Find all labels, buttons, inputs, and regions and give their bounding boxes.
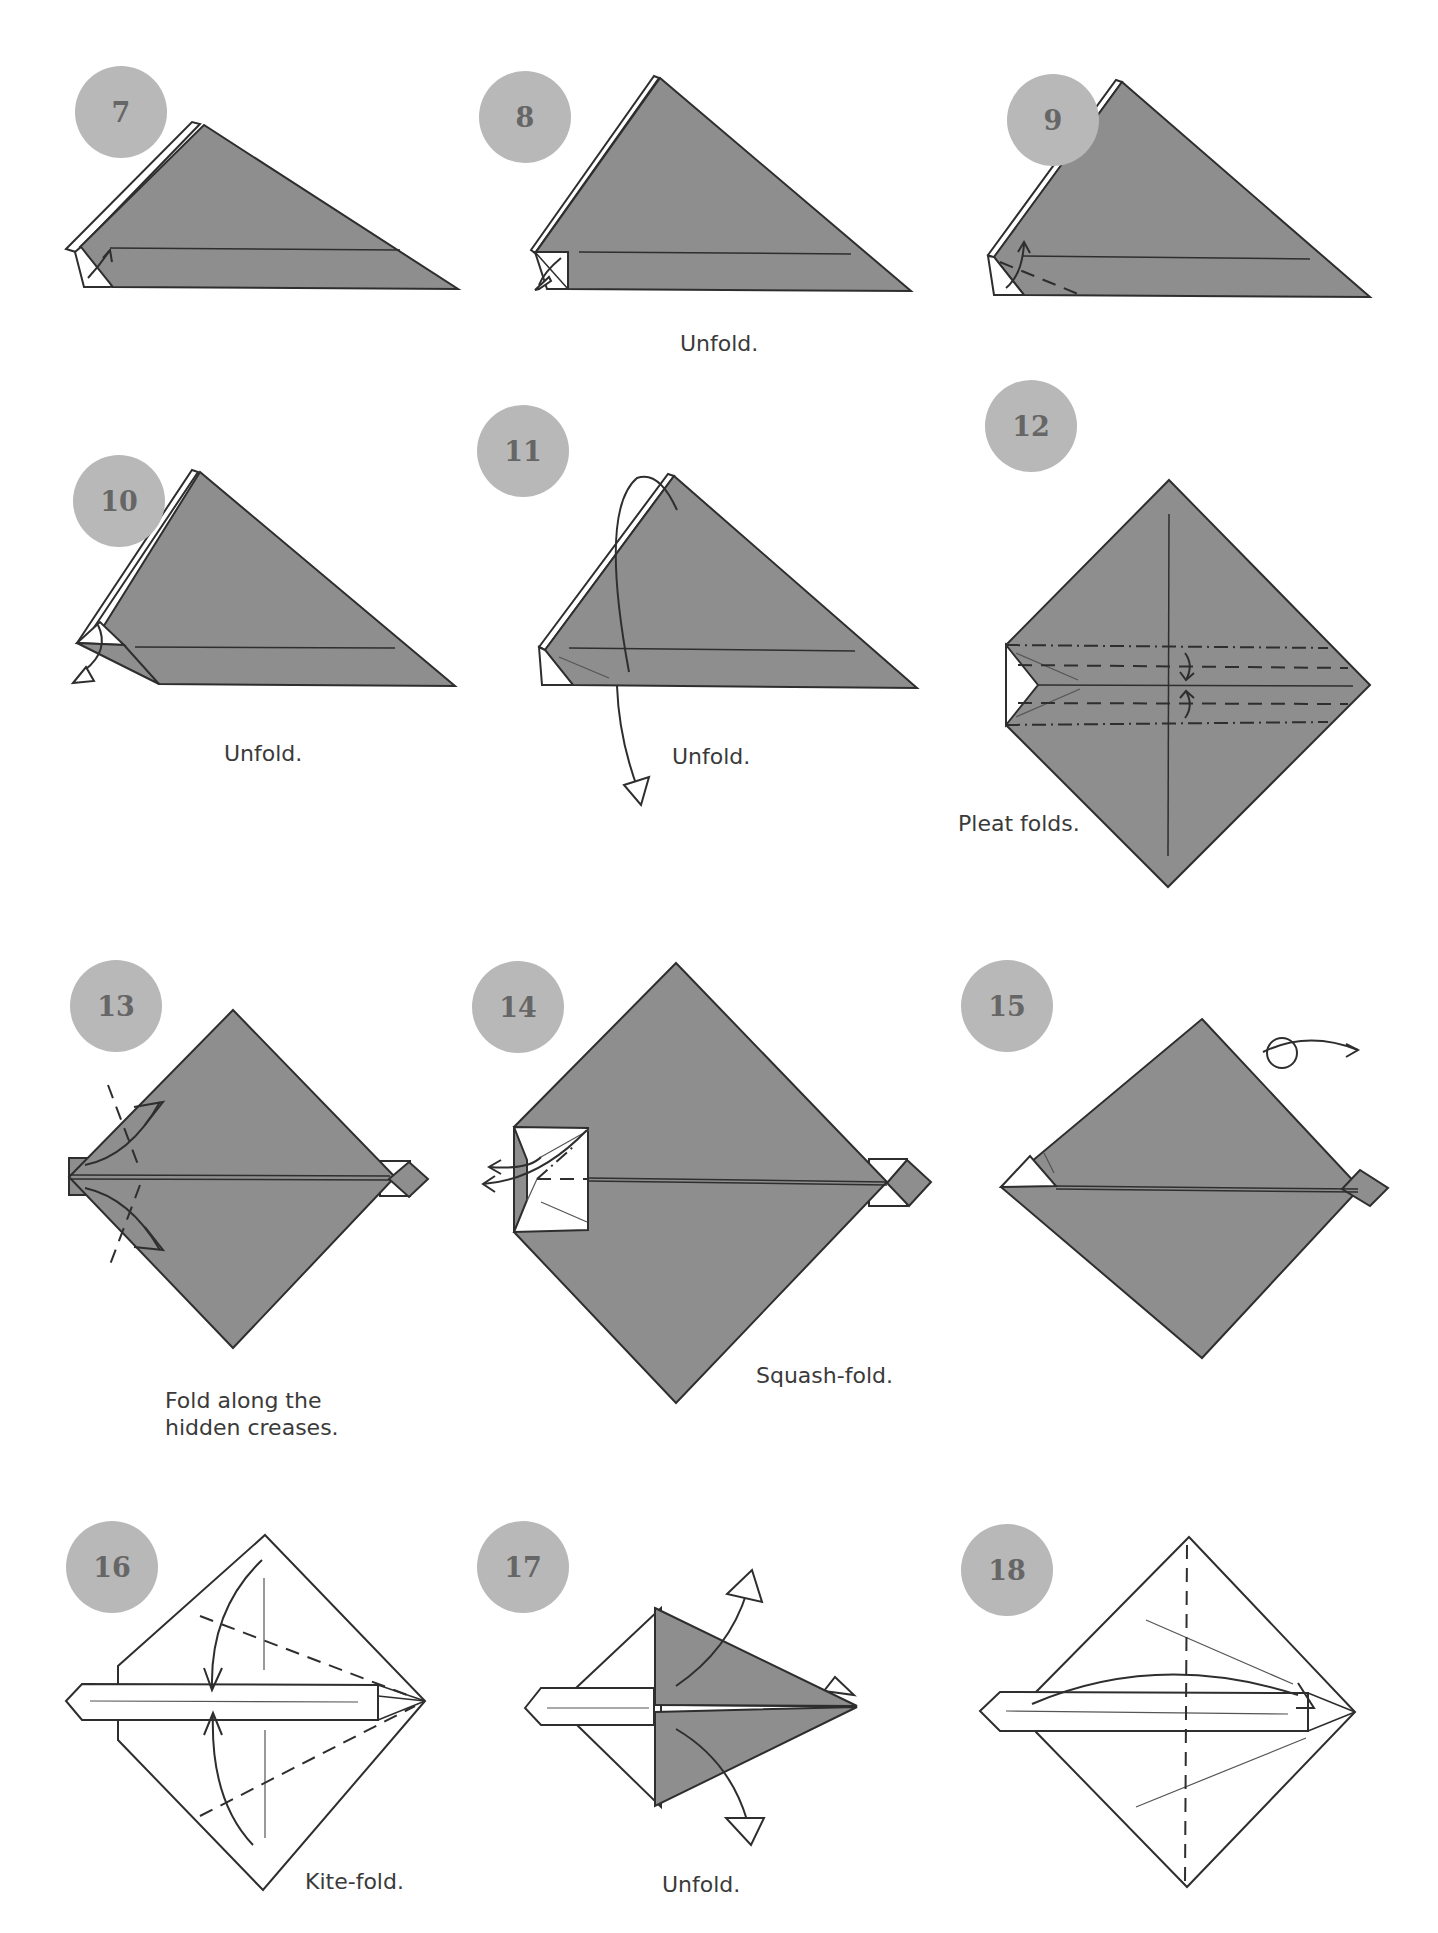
step-number: 11: [504, 436, 542, 467]
step-13-badge: 13: [70, 960, 162, 1052]
step-18-badge: 18: [961, 1524, 1053, 1616]
step-9-diagram: [958, 0, 1438, 380]
step-12: 12 Pleat folds.: [958, 380, 1438, 890]
step-13: 13 Fold along the hidden creases.: [0, 960, 479, 1460]
step-8-diagram: [479, 0, 958, 380]
step-16-caption: Kite-fold.: [305, 1868, 404, 1895]
step-17-badge: 17: [477, 1521, 569, 1613]
step-16-badge: 16: [66, 1521, 158, 1613]
step-15: 15: [958, 960, 1438, 1460]
step-number: 18: [988, 1555, 1026, 1586]
step-10-diagram: [0, 380, 479, 870]
step-17-caption: Unfold.: [662, 1871, 740, 1898]
step-number: 15: [988, 991, 1026, 1022]
step-7: 7: [0, 0, 479, 380]
step-9-badge: 9: [1007, 74, 1099, 166]
step-11-caption: Unfold.: [672, 743, 750, 770]
step-16: 16 Kite-fold.: [0, 1520, 479, 1933]
step-number: 13: [97, 991, 135, 1022]
step-8: 8 Unfold.: [479, 0, 958, 380]
step-11-badge: 11: [477, 405, 569, 497]
step-8-badge: 8: [479, 71, 571, 163]
step-number: 8: [516, 102, 535, 133]
step-15-badge: 15: [961, 960, 1053, 1052]
step-number: 9: [1044, 105, 1063, 136]
step-14-badge: 14: [472, 961, 564, 1053]
step-14: 14 Squash-fold.: [479, 960, 958, 1460]
step-number: 14: [499, 992, 537, 1023]
step-18: 18: [958, 1520, 1438, 1933]
step-10-badge: 10: [73, 455, 165, 547]
step-7-diagram: [0, 0, 479, 380]
step-13-caption: Fold along the hidden creases.: [165, 1387, 339, 1441]
step-12-badge: 12: [985, 380, 1077, 472]
step-17: 17 Unfold.: [479, 1520, 958, 1933]
step-11: 11 Unfold.: [479, 380, 958, 870]
step-number: 10: [100, 486, 138, 517]
step-number: 17: [504, 1552, 542, 1583]
step-number: 12: [1012, 411, 1050, 442]
step-10-caption: Unfold.: [224, 740, 302, 767]
step-number: 7: [112, 97, 131, 128]
step-8-caption: Unfold.: [680, 330, 758, 357]
step-10: 10 Unfold.: [0, 380, 479, 870]
step-number: 16: [93, 1552, 131, 1583]
step-13-diagram: [0, 960, 479, 1460]
step-12-caption: Pleat folds.: [958, 810, 1080, 837]
step-14-caption: Squash-fold.: [756, 1362, 893, 1389]
step-7-badge: 7: [75, 66, 167, 158]
step-9: 9: [958, 0, 1438, 380]
